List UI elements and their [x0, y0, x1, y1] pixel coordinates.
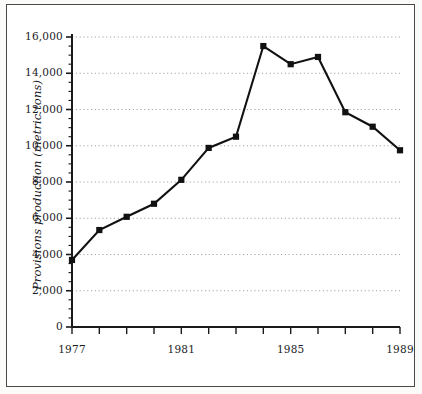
data-point-marker — [178, 177, 184, 183]
y-tick-label: 4,000 — [32, 248, 63, 260]
data-point-marker — [233, 134, 239, 140]
data-point-marker — [96, 227, 102, 233]
x-tick-label: 1985 — [261, 343, 321, 355]
data-point-marker — [260, 43, 266, 49]
y-tick-label: 2,000 — [32, 284, 63, 296]
data-point-marker — [370, 124, 376, 130]
y-tick-label: 6,000 — [32, 211, 63, 223]
chart-figure: Provisions production (metric tons) 02,0… — [0, 0, 422, 394]
data-point-marker — [69, 257, 75, 263]
x-tick-label: 1981 — [151, 343, 211, 355]
y-tick-label: 12,000 — [25, 103, 63, 115]
data-point-marker — [124, 214, 130, 220]
data-point-marker — [397, 147, 403, 153]
y-tick-label: 10,000 — [25, 139, 63, 151]
data-point-marker — [315, 54, 321, 60]
y-tick-label: 0 — [56, 320, 63, 332]
x-tick-label: 1989 — [370, 343, 422, 355]
y-tick-label: 16,000 — [25, 30, 63, 42]
data-point-marker — [342, 109, 348, 115]
data-line — [72, 46, 400, 260]
x-tick-label: 1977 — [42, 343, 102, 355]
line-chart-plot — [0, 0, 422, 394]
data-point-marker — [151, 201, 157, 207]
data-point-marker — [206, 145, 212, 151]
y-tick-label: 14,000 — [25, 66, 63, 78]
data-point-marker — [288, 61, 294, 67]
y-tick-label: 8,000 — [32, 175, 63, 187]
